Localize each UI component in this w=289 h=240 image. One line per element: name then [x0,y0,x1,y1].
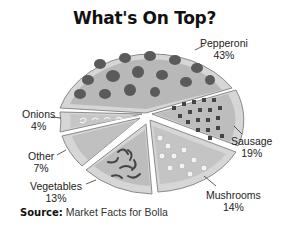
label-vegetables: Vegetables 13% [30,180,82,204]
source-label: Source: [20,207,63,218]
label-value: 14% [206,201,261,213]
label-name: Vegetables [30,180,82,192]
source-text: Market Facts for Bolla [66,206,168,218]
label-name: Sausage [231,135,272,147]
label-value: 4% [22,120,55,132]
label-sausage: Sausage 19% [231,135,272,159]
label-name: Other [28,150,54,162]
label-name: Onions [22,108,55,120]
source-note: Source: Market Facts for Bolla [20,206,168,218]
label-value: 43% [200,49,248,61]
label-value: 7% [28,162,54,174]
label-name: Mushrooms [206,189,261,201]
label-mushrooms: Mushrooms 14% [206,189,261,213]
label-pepperoni: Pepperoni 43% [200,37,248,61]
label-value: 19% [231,147,272,159]
label-other: Other 7% [28,150,54,174]
label-onions: Onions 4% [22,108,55,132]
label-value: 13% [30,192,82,204]
label-name: Pepperoni [200,37,248,49]
